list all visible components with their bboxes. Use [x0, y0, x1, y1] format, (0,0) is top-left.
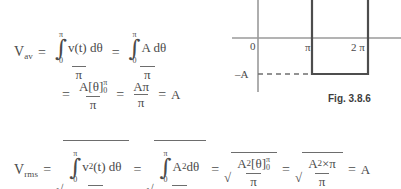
- fraction: A2 [ θ ] π 0 π: [233, 155, 274, 189]
- numerator-api: Aπ: [129, 80, 153, 95]
- numerator: A2 [ θ ] π 0: [233, 155, 274, 173]
- average-voltage-equation-line2: = A [ θ ] π 0 π =: [57, 78, 180, 112]
- integral-lower-limit: 0: [59, 57, 63, 65]
- radicand: π ∫ 0 v2(t) dθ π: [63, 140, 128, 189]
- average-voltage-equation-line1: Vav = π ∫ 0 v(t) dθ π =: [14, 24, 170, 81]
- numerator: π ∫ 0 v2(t) dθ: [65, 143, 125, 185]
- denominator-pi: π: [88, 185, 103, 189]
- integrand-base: A: [173, 160, 182, 174]
- radical-sign: √: [224, 152, 231, 189]
- equals-sign-2: =: [112, 45, 120, 61]
- denominator-pi: π: [134, 94, 149, 110]
- fraction-integral-vt: π ∫ 0 v(t) dθ π: [51, 24, 107, 81]
- radical-a2-times-pi: √ A2×π π: [295, 152, 343, 188]
- x-tick-label-pi: π: [305, 41, 311, 53]
- integrand-a: A dθ: [142, 41, 167, 55]
- denominator-pi: π: [86, 96, 101, 112]
- fraction: π ∫ 0 v2(t) dθ π: [65, 143, 125, 189]
- numerator: π ∫ 0 A2dθ: [156, 143, 204, 185]
- radical-integral-a2: √ π ∫ 0 A2dθ π: [146, 140, 206, 189]
- equals-sign-5: =: [158, 87, 166, 103]
- integral-symbol-vt: π ∫ 0: [55, 31, 67, 65]
- evaluation-bracket: [ θ ] π 0: [88, 79, 107, 95]
- fraction-api-over-pi: Aπ π: [129, 80, 153, 110]
- radical-bracket-a2: √ A2 [ θ ] π 0: [224, 152, 277, 189]
- x-tick-label-2pi: 2 π: [351, 41, 365, 53]
- integral-symbol-v2: π ∫ 0: [69, 150, 81, 184]
- integral-glyph: ∫: [69, 158, 81, 176]
- evaluation-bracket: [ θ ] π 0: [251, 156, 270, 172]
- equals-sign-3: =: [62, 87, 70, 103]
- coefficient-base: A: [237, 157, 246, 171]
- integral-glyph: ∫: [55, 39, 67, 57]
- radicand: A2×π π: [302, 152, 343, 188]
- bracket-limits: π 0: [266, 156, 270, 172]
- denominator-pi: π: [246, 173, 261, 189]
- radicand: π ∫ 0 A2dθ π: [154, 140, 207, 189]
- denominator-pi: π: [315, 173, 330, 189]
- square-wave-figure: 0 π 2 π –A: [232, 0, 401, 96]
- square-waveform-trace: [258, 0, 368, 74]
- bracket-lower-limit: 0: [103, 87, 107, 95]
- rms-voltage-equation: Vrms = √ π ∫ 0 v2(t) dθ: [14, 140, 370, 189]
- numerator: π ∫ 0 A dθ: [125, 24, 171, 66]
- integral-symbol-a2: π ∫ 0: [160, 150, 172, 184]
- equals-sign-2: =: [134, 162, 142, 178]
- equals-sign: =: [38, 45, 46, 61]
- integrand-rest: dθ: [186, 160, 199, 174]
- v-rms-subscript: rms: [24, 168, 38, 178]
- radical-integral-v2: √ π ∫ 0 v2(t) dθ π: [56, 140, 128, 189]
- coefficient-a: A: [79, 80, 88, 94]
- integral-lower-limit: 0: [73, 176, 77, 184]
- numerator-rest: ×π: [322, 157, 336, 171]
- bracket-upper-limit: π: [103, 79, 107, 87]
- numerator: A [ θ ] π 0: [75, 78, 111, 96]
- v-av-symbol: Vav: [14, 44, 33, 61]
- integral-symbol-a: π ∫ 0: [129, 31, 141, 65]
- denominator-pi: π: [172, 185, 187, 189]
- x-tick-label-0: 0: [250, 40, 256, 52]
- numerator: A2×π: [304, 155, 340, 173]
- numerator: π ∫ 0 v(t) dθ: [51, 24, 107, 66]
- average-result: A: [171, 87, 180, 103]
- equals-sign-5: =: [348, 162, 356, 178]
- equals-sign-3: =: [211, 162, 219, 178]
- y-label-minus-a: –A: [234, 68, 249, 80]
- equals-sign: =: [43, 162, 51, 178]
- integral-lower-limit: 0: [164, 176, 168, 184]
- integral-lower-limit: 0: [133, 57, 137, 65]
- integral-glyph: ∫: [129, 39, 141, 57]
- coefficient-base: A: [308, 157, 317, 171]
- v-rms-symbol: Vrms: [14, 162, 38, 179]
- radicand: A2 [ θ ] π 0 π: [231, 152, 277, 189]
- bracket-upper-limit: π: [266, 156, 270, 164]
- fraction-bracket-theta: A [ θ ] π 0 π: [75, 78, 111, 112]
- radical-sign: √: [56, 140, 63, 189]
- integral-glyph: ∫: [160, 158, 172, 176]
- fraction: A2×π π: [304, 155, 340, 188]
- integrand-vt: v(t) dθ: [68, 41, 103, 55]
- equals-sign-4: =: [116, 87, 124, 103]
- integrand-rest: (t) dθ: [93, 160, 121, 174]
- fraction: π ∫ 0 A2dθ π: [156, 143, 204, 189]
- equals-sign-4: =: [282, 162, 290, 178]
- figure-caption: Fig. 3.8.6: [328, 93, 371, 104]
- radical-sign: √: [295, 152, 302, 188]
- rms-result: A: [361, 162, 370, 178]
- bracket-limits: π 0: [103, 79, 107, 95]
- v-av-subscript: av: [24, 51, 33, 61]
- radical-sign: √: [146, 140, 153, 189]
- bracket-lower-limit: 0: [266, 164, 270, 172]
- fraction-integral-a: π ∫ 0 A dθ π: [125, 24, 171, 81]
